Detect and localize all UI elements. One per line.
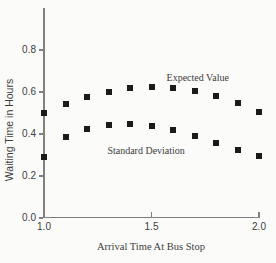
data-point-standard-deviation (106, 122, 112, 128)
data-point-expected-value (149, 84, 155, 90)
data-point-standard-deviation (127, 121, 133, 127)
data-point-standard-deviation (192, 133, 198, 139)
data-point-expected-value (256, 109, 262, 115)
y-tick (39, 49, 44, 51)
series-label-standard-deviation: Standard Deviation (107, 144, 184, 155)
data-point-standard-deviation (84, 126, 90, 132)
series-label-expected-value: Expected Value (167, 71, 229, 82)
data-point-standard-deviation (213, 140, 219, 146)
y-tick (39, 91, 44, 93)
y-tick (39, 175, 44, 177)
x-tick (258, 212, 260, 217)
y-tick (39, 217, 44, 219)
data-point-expected-value (235, 100, 241, 106)
scatter-figure: 0.00.20.40.60.81.01.52.0 Waiting Time in… (0, 0, 276, 263)
data-point-standard-deviation (63, 134, 69, 140)
x-tick-label: 1.5 (137, 221, 167, 233)
data-point-expected-value (41, 110, 47, 116)
x-tick-label: 2.0 (244, 221, 274, 233)
data-point-standard-deviation (41, 154, 47, 160)
y-tick-label: 0.8 (10, 44, 36, 56)
x-tick (151, 212, 153, 217)
data-point-standard-deviation (149, 123, 155, 129)
data-point-expected-value (63, 101, 69, 107)
data-point-expected-value (170, 85, 176, 91)
data-point-standard-deviation (256, 153, 262, 159)
x-tick (43, 212, 45, 217)
data-point-expected-value (127, 85, 133, 91)
data-point-expected-value (192, 88, 198, 94)
x-axis-line (43, 217, 260, 219)
data-point-standard-deviation (170, 127, 176, 133)
data-point-expected-value (213, 93, 219, 99)
data-point-expected-value (106, 89, 112, 95)
data-point-standard-deviation (235, 147, 241, 153)
y-axis-title: Waiting Time in Hours (3, 79, 15, 181)
x-axis-title: Arrival Time At Bus Stop (97, 241, 205, 252)
x-tick-label: 1.0 (29, 221, 59, 233)
data-point-expected-value (84, 94, 90, 100)
y-tick (39, 133, 44, 135)
